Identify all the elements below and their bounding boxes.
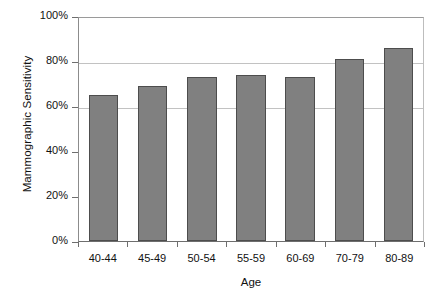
x-axis-tick-label: 60-69 xyxy=(276,252,325,264)
y-axis-tick-label: 20% xyxy=(46,189,68,201)
x-axis-tick-label: 50-54 xyxy=(177,252,226,264)
x-axis-tick-mark xyxy=(226,242,227,247)
x-axis-tick-mark xyxy=(276,242,277,247)
plot-area xyxy=(78,17,424,242)
x-axis-tick-label: 40-44 xyxy=(78,252,127,264)
y-axis-tick-label: 80% xyxy=(46,54,68,66)
bar[interactable] xyxy=(384,48,413,242)
bar[interactable] xyxy=(285,77,314,241)
bar[interactable] xyxy=(335,59,364,241)
bar-slot xyxy=(177,18,226,241)
x-axis-tick-mark xyxy=(375,242,376,247)
x-axis-tick-mark xyxy=(177,242,178,247)
bar[interactable] xyxy=(236,75,265,242)
x-axis-title: Age xyxy=(78,276,424,288)
bar-slot xyxy=(325,18,374,241)
bar-slot xyxy=(128,18,177,241)
bar-slot xyxy=(226,18,275,241)
x-axis-tick-label: 55-59 xyxy=(226,252,275,264)
bar-slot xyxy=(374,18,423,241)
x-axis-tick-labels: 40-4445-4950-5455-5960-6970-7980-89 xyxy=(78,252,424,264)
y-axis-tick-label: 60% xyxy=(46,99,68,111)
y-axis-title: Mammographic Sensitivity xyxy=(21,9,33,239)
x-axis-tick-mark xyxy=(424,242,425,247)
bar[interactable] xyxy=(89,95,118,241)
bar-series xyxy=(79,18,423,241)
y-axis-tick-label: 40% xyxy=(46,144,68,156)
y-axis-tick-label: 100% xyxy=(40,9,68,21)
bar-slot xyxy=(276,18,325,241)
bar-chart-figure: Mammographic Sensitivity 100%80%60%40%20… xyxy=(0,0,445,301)
x-axis-tick-label: 45-49 xyxy=(127,252,176,264)
x-axis-tick-group xyxy=(78,242,424,250)
x-axis-tick-label: 80-89 xyxy=(375,252,424,264)
y-axis-tick-label: 0% xyxy=(52,234,68,246)
bar[interactable] xyxy=(187,77,216,241)
x-axis-tick-mark xyxy=(325,242,326,247)
bar[interactable] xyxy=(138,86,167,241)
bar-slot xyxy=(79,18,128,241)
x-axis-tick-label: 70-79 xyxy=(325,252,374,264)
x-axis-tick-mark xyxy=(78,242,79,247)
x-axis-tick-mark xyxy=(127,242,128,247)
